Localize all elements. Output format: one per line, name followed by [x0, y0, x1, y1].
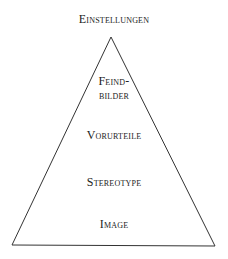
- level-stereotype: Stereotype: [0, 175, 228, 189]
- level-image: Image: [0, 217, 228, 231]
- level-vorurteile: Vorurteile: [0, 128, 228, 142]
- top-label: Einstellungen: [0, 12, 228, 26]
- level-feindbilder-line1: Feind-: [0, 74, 228, 88]
- level-feindbilder-line2: bilder: [0, 88, 228, 102]
